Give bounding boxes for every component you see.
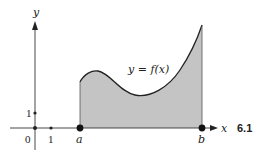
x-axis-arrow-icon [210, 125, 218, 131]
point-a-dot [77, 125, 84, 132]
point-b-dot [199, 125, 206, 132]
origin-label: 0 [25, 133, 31, 145]
y-tick-1-label: 1 [26, 107, 32, 119]
point-b-label: b [198, 133, 205, 146]
figure-number: 6.1 [237, 122, 252, 134]
y-axis-arrow-icon [32, 21, 38, 30]
y-tick-1-dot [33, 111, 36, 114]
x-axis-label: x [221, 122, 228, 135]
point-a-label: a [76, 133, 83, 146]
origin-dot [33, 126, 37, 130]
shaded-area [80, 25, 202, 128]
curve-label: y = f(x) [127, 63, 169, 76]
x-tick-1-label: 1 [48, 133, 54, 145]
y-axis-label: y [32, 6, 40, 19]
x-tick-1-dot [49, 126, 52, 129]
area-under-curve-diagram: y x 0 1 1 a b y = f(x) 6.1 [0, 0, 267, 157]
